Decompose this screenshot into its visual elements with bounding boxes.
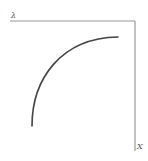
lambda-label: λ: [10, 11, 16, 20]
diagram-canvas: λ X: [0, 0, 148, 161]
arc-curve: [32, 37, 118, 126]
x-label: X: [136, 142, 143, 151]
